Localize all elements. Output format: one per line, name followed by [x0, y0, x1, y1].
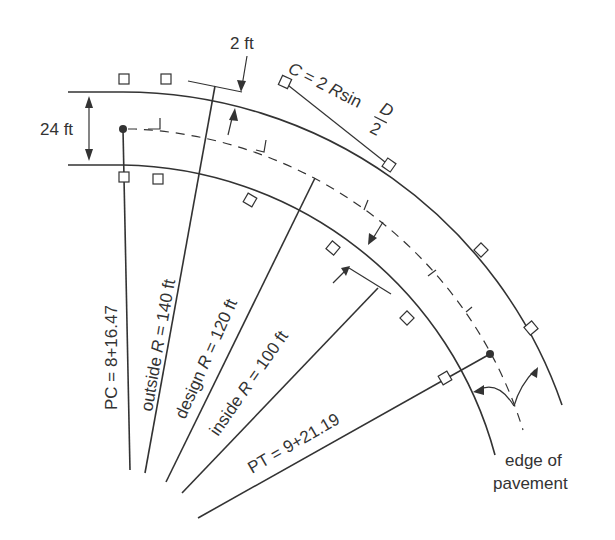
chord-formula-label: C = 2 Rsin D 2 — [278, 53, 397, 141]
outer-pavement-edge — [68, 92, 562, 405]
stakes — [119, 74, 538, 385]
pt-point — [486, 350, 494, 358]
offset-2ft-label: 2 ft — [230, 34, 254, 53]
edge-of-pavement-label-line1: edge of — [505, 451, 562, 470]
outside-radius-label: outside R = 140 ft — [137, 277, 179, 412]
pt-station-label: PT = 9+21.19 — [245, 410, 343, 478]
svg-text:D: D — [377, 99, 397, 122]
svg-text:C = 2 Rsin: C = 2 Rsin — [285, 59, 365, 112]
pc-point — [119, 125, 127, 133]
pc-station-label: PC = 8+16.47 — [102, 305, 121, 410]
width-24ft-label: 24 ft — [40, 120, 73, 139]
curve-diagram: 2 ft 24 ft C = 2 Rsin D 2 PC = 8+16.47 o… — [0, 0, 615, 540]
width-dimension-arrow — [85, 96, 93, 161]
edge-of-pavement-label-line2: pavement — [493, 474, 568, 493]
edge-pointer-arrows — [473, 367, 538, 406]
centerline-ticks — [148, 118, 472, 312]
svg-text:2: 2 — [367, 118, 384, 139]
offset-arrow-2ft-top — [228, 56, 247, 135]
